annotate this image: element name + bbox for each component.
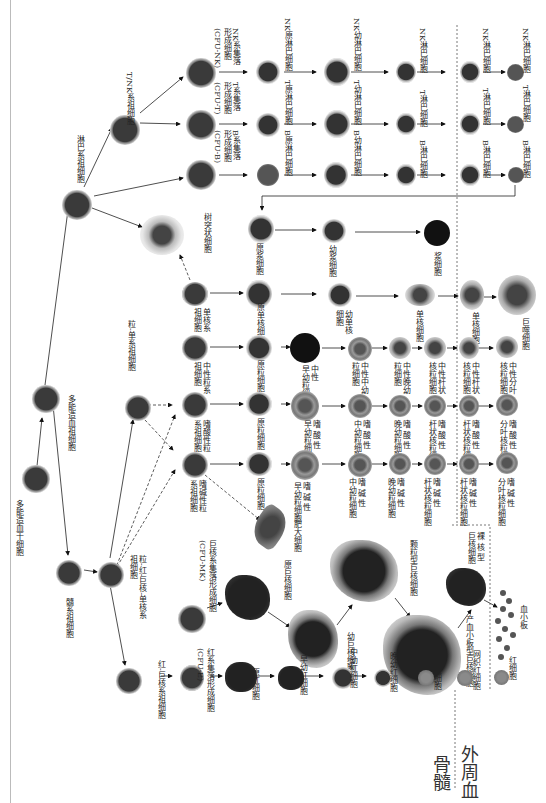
plasma-row-label-1: 幼浆细胞 <box>327 245 336 277</box>
platelet-label: 血小板 <box>518 605 527 629</box>
baso-row-label-5: 嗜 碱 性 杆状核粒细胞 <box>458 478 476 526</box>
eos-row-cell-0 <box>246 392 272 416</box>
baso-row-label-3: 嗜 碱 性 晚幼粒细胞 <box>386 478 404 518</box>
mast-label: 肥大细胞 <box>292 520 301 552</box>
mono-row-cell-1 <box>328 283 352 307</box>
neut-row-cell-6 <box>496 336 518 358</box>
nk-row-label-1: NK幼淋巴细胞 <box>352 18 361 71</box>
baso-row-label-4: 嗜 碱 性 杆状核粒细胞 <box>422 478 440 526</box>
cfu-b-cell <box>186 160 216 190</box>
mpp-cell <box>32 385 60 413</box>
neut-row-cell-3 <box>389 337 411 359</box>
tnk-progenitor-label: T/NK系祖细胞 <box>125 72 134 125</box>
t-row-label-3: T淋巴细胞 <box>481 88 490 125</box>
baso-row-cell-1 <box>291 450 319 480</box>
bone-marrow-label: 骨髓 <box>430 755 450 791</box>
neut-row-cell-0 <box>246 335 272 361</box>
hsc-cell <box>22 465 50 493</box>
baso-row-label-0: 原粒细胞 <box>255 478 264 510</box>
nk-row-cell-0 <box>256 60 280 84</box>
plasma-row-cell-2 <box>424 220 450 246</box>
baso-row-cell-4 <box>424 453 446 475</box>
t-row-label-4: T淋巴细胞 <box>521 85 530 122</box>
b-row-cell-2 <box>396 164 416 186</box>
baso-row-cell-5 <box>459 453 479 475</box>
cfu-e-label: 红系集落形成细胞 (CFU-E) <box>196 648 214 712</box>
mk-row-label-2: 颗粒型巨核细胞 <box>408 540 417 596</box>
neut-row-label-6: 中性分叶 核粒细胞 <box>498 362 516 394</box>
em-progenitor-label: 红-巨核系祖细胞 <box>156 660 165 719</box>
myeloid-progenitor-cell <box>56 560 82 586</box>
baso-row-label-1: 嗜 碱 性 早幼粒细胞 <box>292 482 310 522</box>
eos-progenitor-label: 嗜酸性粒 系祖细胞 <box>192 420 210 452</box>
baso-row-cell-0 <box>246 452 272 476</box>
eos-row-cell-2 <box>348 394 372 418</box>
gemm-label: 粒-红-巨核-单核系 祖细胞 <box>128 555 146 619</box>
mono-progenitor-label: 单核系 祖细胞 <box>192 308 210 332</box>
mono-row-cell-4 <box>498 275 536 315</box>
gm-progenitor-label: 粒-单系祖细胞 <box>126 320 135 371</box>
cfu-t-cell <box>186 110 216 140</box>
gm-progenitor-cell <box>125 395 151 421</box>
dendritic-cell <box>140 215 184 255</box>
nk-row-label-4: NK淋巴细胞 <box>521 28 530 73</box>
em-progenitor-cell <box>116 668 142 694</box>
lymphoid-progenitor-cell <box>62 190 92 220</box>
t-row-cell-3 <box>460 113 480 135</box>
nk-row-cell-3 <box>460 61 480 83</box>
eos-row-cell-1 <box>291 391 319 421</box>
ery-row-label-4: 网织红细胞 <box>432 650 441 690</box>
b-row-label-2: B淋巴细胞 <box>418 140 427 178</box>
eos-row-cell-4 <box>424 395 446 417</box>
cfu-b-label: B系集落 形成细胞 (CFU-B) <box>213 130 240 163</box>
mono-row-label-4: 巨噬细胞 <box>520 318 529 350</box>
neut-row-label-0: 原粒细胞 <box>255 360 264 392</box>
b-row-label-4: B淋巴细胞 <box>521 140 530 178</box>
eos-row-cell-5 <box>459 395 479 417</box>
baso-row-cell-6 <box>496 452 518 474</box>
t-row-cell-0 <box>256 113 280 137</box>
mk-row-label-0: 原巨核细胞 <box>282 560 291 600</box>
ery-row-label-3: 晚幼红细胞 <box>388 652 397 692</box>
baso-progenitor-cell <box>182 452 208 478</box>
b-row-label-3: B淋巴细胞 <box>481 140 490 178</box>
plasma-row-cell-0 <box>248 215 274 243</box>
t-row-label-0: T原淋巴细胞 <box>283 80 292 125</box>
ery-row-label-1: 早幼红细胞 <box>298 655 307 695</box>
plasma-row-cell-1 <box>322 219 346 243</box>
nk-row-label-0: NK原淋巴细胞 <box>283 18 292 71</box>
baso-row-cell-2 <box>348 453 372 477</box>
plasma-row-label-0: 原浆细胞 <box>254 243 263 275</box>
nk-row-label-2: NK淋巴细胞 <box>418 28 427 73</box>
eos-progenitor-cell <box>182 392 208 418</box>
mpp-label: 多能造血祖细胞 <box>66 395 75 451</box>
baso-row-label-6: 嗜 碱 性 分叶核粒细胞 <box>496 478 514 526</box>
t-row-cell-1 <box>324 110 350 138</box>
baso-progenitor-label: 嗜碱性粒 系祖细胞 <box>188 480 206 512</box>
myeloid-progenitor-label: 髓系祖细胞 <box>64 598 73 638</box>
nk-row-label-3: NK淋巴细胞 <box>481 28 490 73</box>
mono-row-cell-2 <box>405 284 435 306</box>
neut-progenitor-cell <box>182 335 208 361</box>
cfu-nk-cell <box>186 58 216 88</box>
neut-progenitor-label: 中性粒系 祖细胞 <box>192 362 210 394</box>
mono-row-label-1: 幼单核 细胞 <box>334 310 352 334</box>
baso-row-label-2: 嗜 碱 性 中幼粒细胞 <box>347 478 365 518</box>
mono-row-label-2: 单核细胞 <box>414 310 423 342</box>
b-row-cell-1 <box>324 162 348 188</box>
ery-row-label-2: 中幼红细胞 <box>348 648 357 688</box>
cfu-t-label: T系集落 形成细胞 (CFU-T) <box>213 82 240 114</box>
hsc-label: 多能造血干细胞 <box>14 500 23 556</box>
nk-row-cell-1 <box>324 58 350 86</box>
neut-row-cell-5 <box>459 337 479 359</box>
b-row-cell-0 <box>257 164 279 186</box>
nk-row-cell-2 <box>396 61 416 83</box>
eos-row-label-0: 原粒细胞 <box>255 418 264 450</box>
plasma-row-label-2: 浆细胞 <box>432 252 441 276</box>
peripheral-blood-label: 外周血 <box>458 745 478 799</box>
b-row-label-0: B原淋巴细胞 <box>283 130 292 176</box>
cfu-mk-label: 巨核系集落形成细胞 (CFU-MK) <box>198 540 216 612</box>
neut-row-cell-4 <box>424 337 446 359</box>
ery-row-label-5: 网织红细胞 <box>471 650 480 690</box>
eos-row-cell-6 <box>496 394 518 416</box>
